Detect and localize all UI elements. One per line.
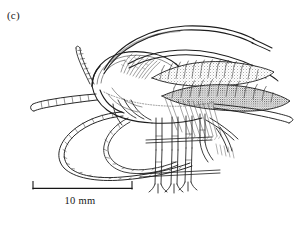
leg-transverse-bars	[140, 137, 220, 177]
figure-panel: (c)	[0, 0, 301, 226]
antennule-upper-left	[76, 46, 94, 84]
scale-bar-label: 10 mm	[28, 195, 132, 206]
thoracic-legs	[149, 114, 213, 193]
telson	[206, 118, 238, 152]
antenna-left-flat	[31, 94, 97, 111]
scale-bar: 10 mm	[28, 180, 143, 214]
antenna-inner-curve	[104, 118, 178, 174]
scale-bar-line	[28, 180, 143, 194]
spiny-appendage-upper	[152, 60, 274, 87]
posterior-setae	[216, 144, 234, 158]
